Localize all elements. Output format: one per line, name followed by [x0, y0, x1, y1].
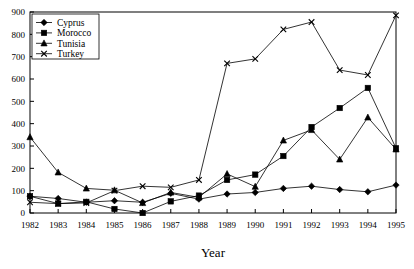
- x-tick-label: 1986: [134, 220, 153, 230]
- data-point: [112, 206, 117, 211]
- x-tick-label: 1989: [218, 220, 237, 230]
- data-point: [140, 210, 145, 215]
- legend-label: Tunisia: [57, 39, 86, 49]
- y-tick-label: 100: [12, 186, 26, 196]
- data-point: [224, 177, 229, 182]
- legend-label: Morocco: [57, 28, 92, 38]
- y-tick-label: 900: [12, 7, 26, 17]
- data-point: [281, 153, 286, 158]
- data-point: [337, 105, 342, 110]
- data-point: [27, 194, 32, 199]
- x-tick-label: 1988: [190, 220, 209, 230]
- line-chart: 0100200300400500600700800900 19821983198…: [0, 0, 414, 269]
- x-tick-label: 1995: [387, 220, 406, 230]
- y-tick-label: 500: [12, 97, 26, 107]
- chart-legend: CyprusMoroccoTunisiaTurkey: [32, 14, 99, 59]
- x-axis-title: Year: [201, 245, 226, 260]
- y-tick-label: 600: [12, 74, 26, 84]
- x-tick-label: 1991: [274, 220, 292, 230]
- y-tick-label: 400: [12, 119, 26, 129]
- x-tick-label: 1985: [105, 220, 124, 230]
- data-point: [253, 172, 258, 177]
- y-tick-label: 0: [21, 208, 26, 218]
- y-tick-label: 700: [12, 52, 26, 62]
- legend-label: Cyprus: [57, 18, 85, 28]
- x-tick-label: 1992: [303, 220, 321, 230]
- x-tick-label: 1984: [77, 220, 96, 230]
- y-tick-label: 300: [12, 141, 26, 151]
- x-tick-label: 1982: [21, 220, 39, 230]
- data-point: [365, 85, 370, 90]
- legend-marker: [41, 30, 46, 35]
- data-point: [168, 199, 173, 204]
- legend-label: Turkey: [57, 49, 84, 59]
- x-tick-label: 1983: [49, 220, 68, 230]
- chart-canvas: 0100200300400500600700800900 19821983198…: [0, 0, 414, 269]
- y-tick-label: 800: [12, 30, 26, 40]
- x-tick-label: 1993: [331, 220, 350, 230]
- x-tick-label: 1994: [359, 220, 378, 230]
- x-tick-label: 1987: [162, 220, 181, 230]
- y-tick-label: 200: [12, 164, 26, 174]
- x-tick-label: 1990: [246, 220, 265, 230]
